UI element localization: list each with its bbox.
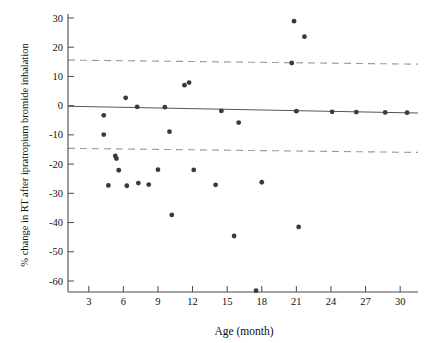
data-point [302, 34, 307, 39]
limit-lines-group [68, 60, 418, 152]
ticks-group [68, 18, 400, 292]
x-tick-label: 18 [257, 296, 268, 307]
mean-line-group [68, 106, 418, 113]
y-tick-label: -60 [49, 276, 63, 287]
y-tick-label: -50 [49, 246, 63, 257]
y-axis-title: % change in RT after ipratropium bromide… [19, 43, 30, 267]
data-point [101, 113, 106, 118]
y-tick-label: -10 [49, 129, 63, 140]
data-point [114, 156, 119, 161]
data-point [182, 83, 187, 88]
data-point [405, 110, 410, 115]
data-point [383, 110, 388, 115]
y-tick-label: 30 [53, 13, 64, 24]
data-point [236, 120, 241, 125]
x-tick-label: 6 [121, 296, 126, 307]
data-point [187, 80, 192, 85]
data-point [232, 234, 237, 239]
data-point [330, 109, 335, 114]
data-point [213, 182, 218, 187]
x-tick-label: 24 [326, 296, 337, 307]
data-point [101, 132, 106, 137]
data-points-group [101, 19, 409, 293]
data-point [254, 288, 259, 293]
data-point [292, 19, 297, 24]
data-point [259, 180, 264, 185]
data-point [354, 110, 359, 115]
scatter-plot-figure: 3020100-10-20-30-40-50-60369121518212427… [0, 0, 432, 343]
data-point [116, 168, 121, 173]
data-point [296, 225, 301, 230]
x-tick-label: 9 [155, 296, 160, 307]
y-tick-label: -20 [49, 159, 63, 170]
data-point [167, 129, 172, 134]
data-point [106, 183, 111, 188]
data-point [294, 109, 299, 114]
data-point [162, 105, 167, 110]
x-tick-label: 3 [86, 296, 91, 307]
data-point [136, 181, 141, 186]
data-point [191, 168, 196, 173]
data-point [123, 95, 128, 100]
data-point [135, 104, 140, 109]
y-tick-label: 20 [53, 42, 64, 53]
data-point [124, 183, 129, 188]
y-tick-label: -40 [49, 217, 63, 228]
x-tick-label: 21 [291, 296, 302, 307]
lower-limit-of-agreement [68, 148, 418, 152]
axes-group [68, 14, 418, 292]
y-tick-label: -30 [49, 188, 63, 199]
x-tick-label: 30 [395, 296, 406, 307]
tick-labels-group: 3020100-10-20-30-40-50-60369121518212427… [49, 13, 405, 307]
chart-canvas: 3020100-10-20-30-40-50-60369121518212427… [0, 0, 432, 343]
data-point [289, 61, 294, 66]
x-tick-label: 15 [222, 296, 233, 307]
data-point [156, 167, 161, 172]
y-tick-label: 0 [58, 100, 63, 111]
data-point [219, 109, 224, 114]
x-tick-label: 12 [187, 296, 198, 307]
mean-line [68, 106, 418, 113]
data-point [169, 213, 174, 218]
upper-limit-of-agreement [68, 60, 418, 64]
y-tick-label: 10 [53, 71, 64, 82]
x-axis-title: Age (month) [214, 325, 273, 338]
data-point [146, 182, 151, 187]
x-tick-label: 27 [360, 296, 371, 307]
